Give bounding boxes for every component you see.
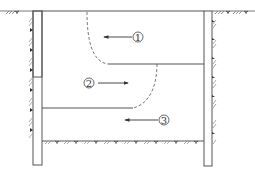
layer-2-dashed-boundary bbox=[133, 64, 157, 108]
layer-1-label: 1 bbox=[135, 32, 141, 43]
left-wall-soil-hatch bbox=[29, 18, 32, 138]
layer-2-label: 2 bbox=[86, 78, 92, 89]
right-wall-soil-hatch bbox=[213, 20, 216, 144]
layer-1-dashed-boundary bbox=[87, 12, 108, 64]
ground-surface-right bbox=[212, 11, 255, 14]
layer-3-label: 3 bbox=[161, 115, 167, 126]
excavation-diagram: 1 2 3 bbox=[0, 0, 255, 178]
left-retaining-wall bbox=[33, 11, 42, 77]
right-retaining-wall bbox=[204, 11, 212, 166]
ground-surface-left bbox=[0, 11, 33, 14]
